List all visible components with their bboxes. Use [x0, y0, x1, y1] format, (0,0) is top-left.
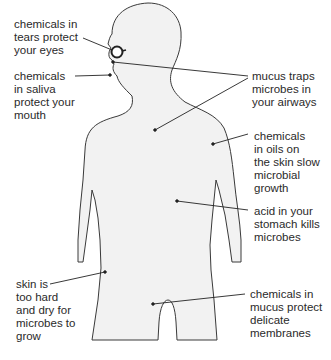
glasses-icon [112, 47, 123, 58]
label-saliva: chemicals in saliva protect your mouth [14, 70, 75, 122]
label-oils: chemicals in oils on the skin slow micro… [254, 130, 320, 195]
leader-dot-membranes [152, 303, 155, 306]
glasses-bridge [122, 50, 126, 51]
leader-dot-acid [176, 200, 179, 203]
label-acid: acid in your stomach kills microbes [254, 205, 320, 244]
label-mucus-membranes: chemicals in mucus protect delicate memb… [250, 288, 322, 340]
label-skin: skin is too hard and dry for microbes to… [16, 278, 75, 343]
leader-dot-nose [112, 61, 115, 64]
body-silhouette [78, 3, 241, 340]
leader-saliva [75, 75, 110, 76]
leader-dot-oils [212, 143, 215, 146]
label-tears: chemicals in tears protect your eyes [14, 18, 78, 57]
label-mucus-airways: mucus traps microbes in your airways [252, 70, 317, 109]
leader-dot-chest [154, 129, 157, 132]
leader-dot-skin [104, 271, 107, 274]
leader-dot-saliva [109, 74, 112, 77]
